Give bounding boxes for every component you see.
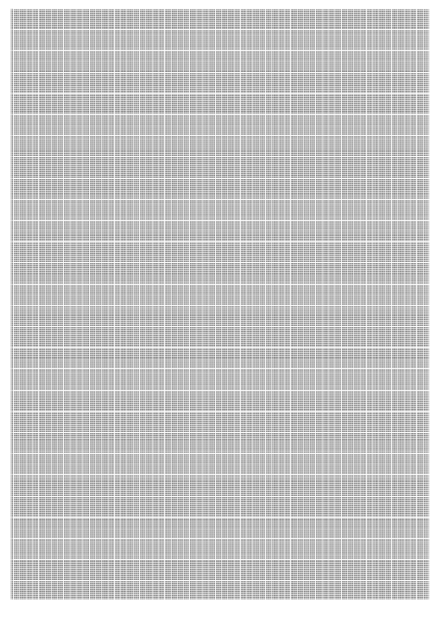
section-band-rule [10, 432, 430, 433]
section-band-rule [10, 220, 430, 221]
section-band-rule [10, 262, 430, 263]
section-band-rule [10, 284, 430, 285]
section-band-rule [10, 538, 430, 539]
section-band-rule [10, 453, 430, 454]
section-band-rule [10, 559, 430, 560]
document-content-grid [10, 8, 430, 600]
row-index-gutter [10, 8, 13, 600]
section-band-rule [10, 8, 430, 9]
section-band-rule [10, 199, 430, 200]
section-band-rule [10, 241, 430, 242]
section-band-rule [10, 135, 430, 136]
section-band-rule [10, 368, 430, 369]
section-band-rule [10, 496, 430, 497]
section-band-rule [10, 72, 430, 73]
section-band-rule [10, 474, 430, 475]
section-band-rule [10, 517, 430, 518]
section-band-rule [10, 305, 430, 306]
section-band-rule [10, 411, 430, 412]
section-band-rule [10, 326, 430, 327]
section-band-layer [10, 8, 430, 600]
section-band-rule [10, 178, 430, 179]
section-band-rule [10, 347, 430, 348]
section-band-rule [10, 114, 430, 115]
section-band-rule [10, 580, 430, 581]
section-band-rule [10, 93, 430, 94]
document-page [0, 0, 439, 618]
section-band-rule [10, 50, 430, 51]
section-band-rule [10, 156, 430, 157]
section-band-rule [10, 29, 430, 30]
section-band-rule [10, 390, 430, 391]
